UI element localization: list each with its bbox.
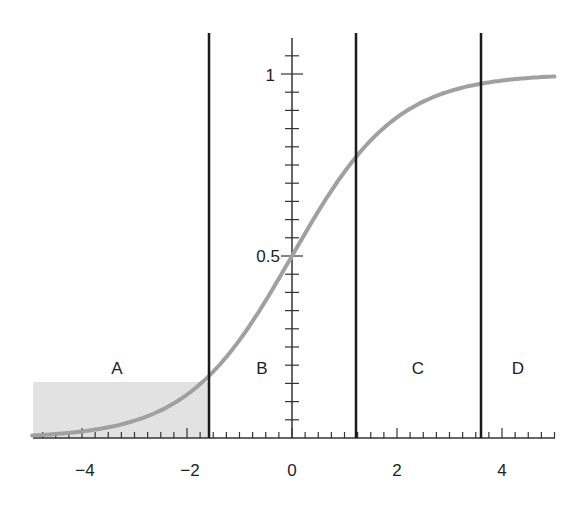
region-label-a: A xyxy=(111,359,123,378)
region-label-b: B xyxy=(256,359,267,378)
y-tick-label: 1 xyxy=(266,66,275,85)
x-tick-label: 0 xyxy=(287,461,296,480)
x-tick-label: 4 xyxy=(497,461,506,480)
region-label-d: D xyxy=(512,359,524,378)
sigmoid-curve xyxy=(32,76,554,435)
y-tick-label: 0.5 xyxy=(256,247,280,266)
x-tick-label: −2 xyxy=(180,461,199,480)
sigmoid-chart: A B C D −4 −2 0 2 4 1 0.5 xyxy=(0,0,582,508)
x-tick-label: 2 xyxy=(392,461,401,480)
region-label-c: C xyxy=(412,359,424,378)
shaded-area xyxy=(33,382,209,438)
y-axis xyxy=(281,38,303,438)
x-tick-label: −4 xyxy=(75,461,94,480)
